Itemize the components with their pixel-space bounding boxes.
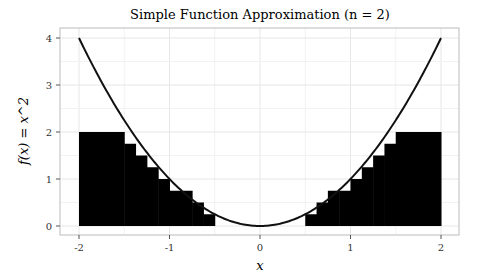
svg-text:1: 1 — [46, 174, 52, 185]
svg-text:0: 0 — [257, 242, 263, 253]
svg-text:4: 4 — [46, 33, 52, 44]
svg-text:2: 2 — [438, 242, 444, 253]
chart: -2-101201234 Simple Function Approximati… — [0, 0, 485, 280]
svg-text:-2: -2 — [74, 242, 84, 253]
x-axis-label: x — [256, 258, 264, 273]
svg-text:3: 3 — [46, 80, 52, 91]
chart-title: Simple Function Approximation (n = 2) — [130, 7, 390, 22]
svg-text:0: 0 — [46, 221, 52, 232]
svg-text:2: 2 — [46, 127, 52, 138]
y-axis-label: f(x) = x^2 — [16, 97, 31, 166]
svg-text:-1: -1 — [165, 242, 175, 253]
svg-text:1: 1 — [347, 242, 353, 253]
